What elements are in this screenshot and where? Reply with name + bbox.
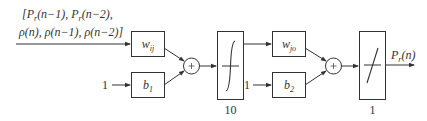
b1-to-sum1-arrow [164,71,184,85]
input-vector-label-line1: [Pr(n−1), Pr(n−2), [22,7,113,26]
bias1-input-label: 1 [102,78,108,92]
w-to-sum1-arrow [164,48,184,61]
hidden-layer-size-label: 10 [217,103,244,117]
bias2-input-label: 1 [244,78,250,92]
weight-jo-label: wjo [272,37,306,56]
input-vector-label-line2: ρ(n), ρ(n−1), ρ(n−2)] [19,25,123,39]
output-label: Pr(n) [391,48,415,67]
output-layer-size-label: 1 [359,103,386,117]
w-to-sum2-arrow [305,48,326,61]
weight-ij-label: wij [131,37,165,56]
bias2-label: b2 [272,78,306,97]
bias1-label: b1 [131,78,165,97]
b2-to-sum2-arrow [305,71,326,85]
